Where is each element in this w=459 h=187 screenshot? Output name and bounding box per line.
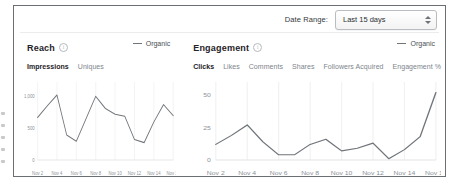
page-root: Date Range: Last 15 days Reachi Organic: [0, 0, 459, 187]
reach-series-line: [38, 95, 174, 143]
info-icon[interactable]: i: [59, 43, 68, 52]
svg-text:Nov 16: Nov 16: [167, 170, 177, 176]
reach-chart-svg: Nov 2Nov 4Nov 6Nov 8Nov 10Nov 12Nov 14No…: [18, 76, 176, 182]
tab-likes[interactable]: Likes: [223, 63, 240, 70]
svg-text:1,000: 1,000: [24, 93, 35, 99]
engagement-series-line: [216, 92, 436, 158]
tab-followers-acquired[interactable]: Followers Acquired: [323, 63, 383, 70]
engagement-legend: Organic: [397, 40, 435, 47]
svg-text:0: 0: [207, 157, 211, 163]
engagement-axis-labels: Nov 2Nov 4Nov 6Nov 8Nov 10Nov 12Nov 14No…: [204, 92, 441, 176]
svg-text:Nov 2: Nov 2: [32, 170, 43, 176]
engagement-header: Engagementi Organic: [184, 38, 441, 56]
engagement-panel: Engagementi Organic Clicks Likes Comment…: [180, 33, 445, 176]
engagement-legend-label: Organic: [410, 40, 435, 47]
tab-clicks[interactable]: Clicks: [193, 63, 214, 70]
svg-text:Nov 10: Nov 10: [108, 170, 122, 176]
svg-text:50: 50: [204, 92, 212, 98]
svg-text:500: 500: [28, 125, 35, 131]
svg-text:Nov 8: Nov 8: [301, 170, 319, 176]
reach-tabs: Impressions Uniques: [18, 57, 176, 70]
svg-text:Nov 8: Nov 8: [90, 170, 101, 176]
reach-legend: Organic: [133, 40, 171, 47]
svg-text:Nov 14: Nov 14: [147, 170, 161, 176]
tab-uniques[interactable]: Uniques: [78, 63, 104, 70]
reach-header: Reachi Organic: [18, 38, 176, 56]
tab-comments[interactable]: Comments: [249, 63, 283, 70]
svg-text:Nov 12: Nov 12: [128, 170, 142, 176]
reach-legend-label: Organic: [146, 40, 171, 47]
svg-text:0: 0: [32, 157, 35, 163]
svg-text:Nov 2: Nov 2: [207, 170, 225, 176]
reach-gridlines: [38, 82, 174, 160]
reach-title: Reach: [27, 43, 55, 53]
tab-engagement-percent[interactable]: Engagement %: [393, 63, 441, 70]
svg-text:Nov 12: Nov 12: [362, 170, 384, 176]
date-range-select[interactable]: Last 15 days: [335, 10, 437, 30]
engagement-gridlines: [216, 82, 436, 160]
updown-stepper-icon[interactable]: [425, 16, 431, 24]
svg-text:Nov 16: Nov 16: [425, 170, 441, 176]
engagement-title: Engagement: [193, 43, 249, 53]
svg-text:25: 25: [204, 124, 212, 130]
tab-shares[interactable]: Shares: [292, 63, 314, 70]
tab-impressions[interactable]: Impressions: [27, 63, 69, 70]
svg-text:Nov 10: Nov 10: [331, 170, 353, 176]
svg-text:Nov 6: Nov 6: [270, 170, 288, 176]
engagement-chart: Nov 2Nov 4Nov 6Nov 8Nov 10Nov 12Nov 14No…: [184, 76, 441, 182]
line-dash-marker: [397, 43, 406, 45]
date-range-value: Last 15 days: [336, 15, 386, 24]
svg-text:Nov 14: Nov 14: [394, 170, 416, 176]
date-range-label: Date Range:: [285, 15, 328, 24]
engagement-chart-svg: Nov 2Nov 4Nov 6Nov 8Nov 10Nov 12Nov 14No…: [184, 76, 441, 182]
date-range-control[interactable]: Date Range: Last 15 days: [285, 10, 437, 29]
reach-chart: Nov 2Nov 4Nov 6Nov 8Nov 10Nov 12Nov 14No…: [18, 76, 176, 182]
info-icon[interactable]: i: [253, 43, 262, 52]
reach-panel: Reachi Organic Impressions Uniques Nov 2…: [14, 33, 180, 176]
charts-container: Reachi Organic Impressions Uniques Nov 2…: [14, 33, 445, 176]
line-dash-marker: [133, 43, 142, 45]
svg-text:Nov 4: Nov 4: [51, 170, 62, 176]
svg-text:Nov 4: Nov 4: [239, 170, 257, 176]
reach-axis-labels: Nov 2Nov 4Nov 6Nov 8Nov 10Nov 12Nov 14No…: [24, 93, 176, 176]
engagement-tabs: Clicks Likes Comments Shares Followers A…: [184, 57, 441, 70]
svg-text:Nov 6: Nov 6: [71, 170, 82, 176]
page-edge-artifacts: [1, 112, 7, 172]
analytics-panel: Date Range: Last 15 days Reachi Organic: [13, 5, 446, 177]
panel-toolbar: Date Range: Last 15 days: [14, 6, 445, 33]
